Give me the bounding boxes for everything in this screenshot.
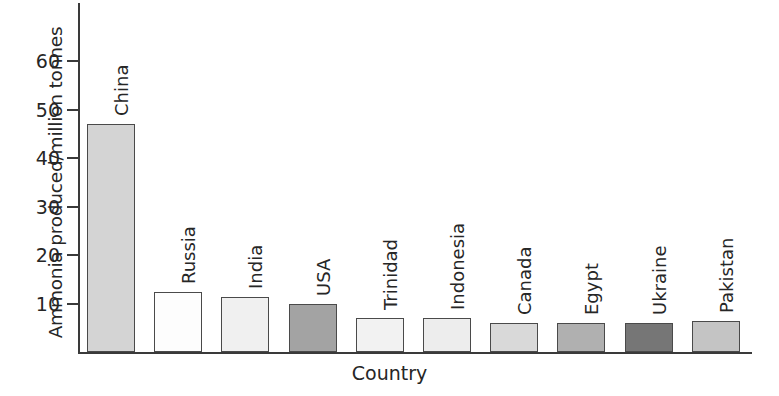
bar bbox=[625, 323, 673, 352]
bar-category-label: USA bbox=[313, 126, 334, 296]
y-tick-mark bbox=[67, 157, 79, 159]
bar-category-label: Egypt bbox=[581, 145, 602, 315]
y-tick-mark bbox=[67, 254, 79, 256]
bar-group: China bbox=[80, 3, 142, 352]
bar-category-label: China bbox=[111, 0, 132, 116]
bar-category-label: Canada bbox=[514, 145, 535, 315]
bar bbox=[490, 323, 538, 352]
bar-category-label: Pakistan bbox=[716, 143, 737, 313]
bar bbox=[692, 321, 740, 352]
plot-area: ChinaRussiaIndiaUSATrinidadIndonesiaCana… bbox=[80, 3, 752, 352]
bar-group: Pakistan bbox=[685, 3, 747, 352]
y-tick-label: 60 bbox=[0, 50, 60, 72]
bar-group: Egypt bbox=[550, 3, 612, 352]
y-tick-label: 40 bbox=[0, 147, 60, 169]
bar-group: India bbox=[214, 3, 276, 352]
y-tick-label: 30 bbox=[0, 196, 60, 218]
bar-group: Indonesia bbox=[416, 3, 478, 352]
bar bbox=[356, 318, 404, 352]
bar bbox=[557, 323, 605, 352]
y-tick-mark bbox=[67, 303, 79, 305]
y-tick-mark bbox=[67, 109, 79, 111]
bar bbox=[87, 124, 135, 352]
bar-category-label: India bbox=[245, 119, 266, 289]
bar-group: Russia bbox=[147, 3, 209, 352]
bar-group: Ukraine bbox=[618, 3, 680, 352]
bar-category-label: Russia bbox=[178, 114, 199, 284]
bar-group: USA bbox=[282, 3, 344, 352]
bar-group: Trinidad bbox=[349, 3, 411, 352]
bar bbox=[289, 304, 337, 352]
y-tick-mark bbox=[67, 60, 79, 62]
bar bbox=[221, 297, 269, 352]
bar-chart-figure: Ammonia produced/million tonnes 10203040… bbox=[0, 0, 779, 396]
bar-group: Canada bbox=[483, 3, 545, 352]
bar-category-label: Indonesia bbox=[447, 140, 468, 310]
y-tick-label: 20 bbox=[0, 244, 60, 266]
bar bbox=[154, 292, 202, 352]
bar-category-label: Ukraine bbox=[649, 145, 670, 315]
y-tick-mark bbox=[67, 206, 79, 208]
x-axis-line bbox=[78, 352, 752, 354]
bar bbox=[423, 318, 471, 352]
x-axis-title: Country bbox=[0, 362, 779, 384]
bar-category-label: Trinidad bbox=[380, 140, 401, 310]
y-tick-label: 10 bbox=[0, 293, 60, 315]
y-tick-label: 50 bbox=[0, 99, 60, 121]
